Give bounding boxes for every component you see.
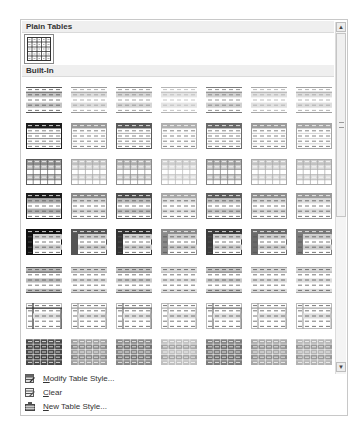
style-thumb-table-grid[interactable] (27, 37, 51, 61)
modify-table-style-icon (25, 374, 35, 383)
style-thumb-medium-shading-2-7[interactable] (296, 229, 332, 255)
style-thumb-medium-shading-1-3[interactable] (116, 193, 152, 219)
style-thumb-light-shading-2[interactable] (71, 87, 107, 113)
access-key-m: M (43, 374, 50, 383)
style-thumb-light-grid-1[interactable] (26, 159, 62, 185)
style-thumb-light-shading-7[interactable] (296, 87, 332, 113)
style-thumb-medium-list-2-2[interactable] (71, 303, 107, 329)
menu-item-label: lear (49, 388, 62, 397)
style-thumb-medium-shading-1-4[interactable] (161, 193, 197, 219)
scroll-down-button[interactable]: ▼ (336, 362, 346, 372)
style-thumb-light-list-3[interactable] (116, 123, 152, 149)
style-thumb-light-grid-3[interactable] (116, 159, 152, 185)
clear-table-style-icon (25, 388, 35, 397)
style-thumb-light-list-6[interactable] (251, 123, 287, 149)
gallery-scrollbar[interactable]: ▲ ▼ (335, 22, 346, 374)
style-thumb-medium-grid-4[interactable] (161, 339, 197, 365)
style-thumb-light-shading-5[interactable] (206, 87, 242, 113)
style-thumb-medium-list-1-1[interactable] (26, 267, 62, 293)
style-thumb-light-grid-7[interactable] (296, 159, 332, 185)
style-thumb-light-list-5[interactable] (206, 123, 242, 149)
style-thumb-medium-list-2-3[interactable] (116, 303, 152, 329)
new-table-style-icon (25, 402, 35, 411)
style-thumb-medium-shading-2-1[interactable] (26, 229, 62, 255)
section-header-plain-tables: Plain Tables (22, 21, 334, 33)
style-thumb-medium-list-1-6[interactable] (251, 267, 287, 293)
style-thumb-medium-shading-2-4[interactable] (161, 229, 197, 255)
style-thumb-medium-list-2-1[interactable] (26, 303, 62, 329)
style-thumb-medium-list-1-5[interactable] (206, 267, 242, 293)
style-thumb-light-shading-1[interactable] (26, 87, 62, 113)
style-thumb-light-shading-6[interactable] (251, 87, 287, 113)
style-thumb-light-list-1[interactable] (26, 123, 62, 149)
style-thumb-light-grid-6[interactable] (251, 159, 287, 185)
section-header-built-in: Built-In (22, 65, 334, 77)
style-thumb-light-grid-5[interactable] (206, 159, 242, 185)
style-thumb-medium-list-2-7[interactable] (296, 303, 332, 329)
style-thumb-medium-grid-3[interactable] (116, 339, 152, 365)
style-thumb-medium-list-1-7[interactable] (296, 267, 332, 293)
menu-item-label: ew Table Style... (49, 402, 107, 411)
style-thumb-medium-shading-2-5[interactable] (206, 229, 242, 255)
style-thumb-medium-list-2-4[interactable] (161, 303, 197, 329)
style-thumb-medium-grid-1[interactable] (26, 339, 62, 365)
scroll-up-button[interactable]: ▲ (336, 22, 346, 32)
style-thumb-medium-shading-1-1[interactable] (26, 193, 62, 219)
style-thumb-medium-shading-2-6[interactable] (251, 229, 287, 255)
menu-item-modify-table-style[interactable]: Modify Table Style... (25, 372, 325, 385)
style-thumb-medium-grid-5[interactable] (206, 339, 242, 365)
menu-item-clear[interactable]: Clear (25, 386, 325, 399)
table-styles-gallery: Plain Tables Built-In (21, 20, 335, 375)
style-thumb-medium-list-1-2[interactable] (71, 267, 107, 293)
style-thumb-medium-grid-2[interactable] (71, 339, 107, 365)
style-thumb-light-list-7[interactable] (296, 123, 332, 149)
style-thumb-medium-list-2-6[interactable] (251, 303, 287, 329)
menu-item-new-table-style[interactable]: New Table Style... (25, 400, 325, 413)
style-thumb-light-shading-4[interactable] (161, 87, 197, 113)
style-thumb-medium-shading-1-5[interactable] (206, 193, 242, 219)
style-thumb-medium-list-1-3[interactable] (116, 267, 152, 293)
style-thumb-medium-grid-7[interactable] (296, 339, 332, 365)
style-thumb-medium-shading-2-2[interactable] (71, 229, 107, 255)
scrollbar-thumb[interactable] (336, 33, 346, 217)
table-styles-gallery-panel: Plain Tables Built-In (20, 19, 348, 416)
style-thumb-light-list-2[interactable] (71, 123, 107, 149)
style-thumb-medium-shading-1-7[interactable] (296, 193, 332, 219)
style-thumb-medium-grid-6[interactable] (251, 339, 287, 365)
scrollbar-grip-icon (339, 122, 344, 128)
style-thumb-medium-shading-1-2[interactable] (71, 193, 107, 219)
menu-item-label: odify Table Style... (50, 374, 115, 383)
style-thumb-light-list-4[interactable] (161, 123, 197, 149)
style-thumb-medium-list-2-5[interactable] (206, 303, 242, 329)
style-thumb-light-grid-2[interactable] (71, 159, 107, 185)
style-thumb-light-shading-3[interactable] (116, 87, 152, 113)
style-thumb-medium-list-1-4[interactable] (161, 267, 197, 293)
style-thumb-medium-shading-2-3[interactable] (116, 229, 152, 255)
style-thumb-light-grid-4[interactable] (161, 159, 197, 185)
style-thumb-medium-shading-1-6[interactable] (251, 193, 287, 219)
